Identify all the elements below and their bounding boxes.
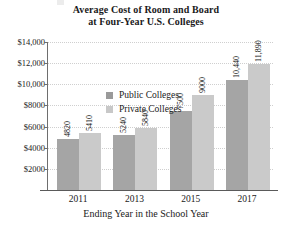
- legend-swatch-private-icon: [106, 106, 113, 113]
- bar-value-label: 4820: [64, 121, 72, 137]
- y-axis-tick: [44, 105, 48, 106]
- y-axis-tick-label: $10,000: [1, 80, 45, 89]
- legend-item-private: Private Colleges: [106, 102, 218, 116]
- y-axis-tick: [44, 42, 48, 43]
- y-axis-tick: [44, 148, 48, 149]
- bar-group: 75009000: [170, 42, 214, 190]
- bar-public: 5240: [113, 135, 135, 190]
- bar-value-label: 5410: [86, 115, 94, 131]
- bar-group: 10,44011,890: [226, 42, 270, 190]
- chart-title-line-2: at Four-Year U.S. Colleges: [0, 16, 292, 28]
- bar-value-label: 5240: [120, 117, 128, 133]
- x-axis-tick-label: 2015: [169, 193, 213, 205]
- bar-private: 11,890: [248, 64, 270, 190]
- chart-legend: Public Colleges Private Colleges: [106, 88, 218, 116]
- x-axis-tick-label: 2011: [56, 193, 100, 205]
- bar-value-label: 11,890: [255, 41, 263, 63]
- plot-area: 48205410524058407500900010,44011,890 Pub…: [47, 42, 272, 190]
- x-axis-title: Ending Year in the School Year: [0, 208, 292, 220]
- bar-public: 7500: [170, 111, 192, 190]
- x-axis-tick-label: 2013: [112, 193, 156, 205]
- chart-screenshot: Average Cost of Room and Board at Four-Y…: [0, 0, 292, 230]
- y-axis-tick-label: $2000: [1, 165, 45, 174]
- bar-group: 52405840: [113, 42, 157, 190]
- y-axis-tick-label: $8000: [1, 101, 45, 110]
- y-axis-tick-label: $6000: [1, 123, 45, 132]
- bar-private: 5410: [79, 133, 101, 190]
- y-axis-tick: [44, 84, 48, 85]
- y-axis-tick: [44, 169, 48, 170]
- bar-group: 48205410: [57, 42, 101, 190]
- bar-private: 5840: [135, 128, 157, 190]
- legend-item-public: Public Colleges: [106, 88, 218, 102]
- x-axis-tick-label: 2017: [225, 193, 269, 205]
- y-axis-tick-label: $12,000: [1, 59, 45, 68]
- legend-label-private: Private Colleges: [119, 104, 182, 114]
- x-axis-line: [40, 190, 278, 191]
- y-axis-labels: $14,000$12,000$10,000$8000$6000$4000$200…: [0, 42, 45, 190]
- y-axis-tick-label: $14,000: [1, 38, 45, 47]
- y-axis-tick: [44, 127, 48, 128]
- bar-public: 4820: [57, 139, 79, 190]
- legend-label-public: Public Colleges: [119, 90, 179, 100]
- bar-public: 10,440: [226, 80, 248, 190]
- x-axis-labels: 2011201320152017: [47, 193, 272, 207]
- legend-swatch-public-icon: [106, 92, 113, 99]
- y-axis-tick: [44, 63, 48, 64]
- chart-title: Average Cost of Room and Board at Four-Y…: [0, 4, 292, 28]
- chart-title-line-1: Average Cost of Room and Board: [73, 4, 219, 15]
- bar-value-label: 10,440: [233, 56, 241, 78]
- y-axis-tick-label: $4000: [1, 144, 45, 153]
